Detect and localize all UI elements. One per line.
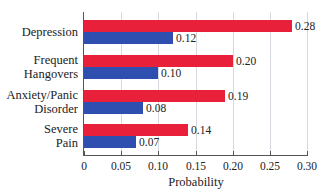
tick-mark	[307, 151, 308, 155]
bar	[84, 102, 143, 114]
x-axis-line	[83, 155, 308, 156]
bar	[84, 32, 173, 44]
value-label: 0.10	[161, 67, 181, 79]
tick-label: 0.20	[223, 160, 243, 172]
bar	[84, 67, 158, 79]
tick-mark	[233, 151, 234, 155]
tick-label: 0.10	[148, 160, 168, 172]
horizontal-bar-chart: 00.050.100.150.200.250.30 DepressionFreq…	[0, 0, 321, 191]
gridline	[307, 12, 308, 155]
category-label: Anxiety/Panic Disorder	[6, 88, 78, 116]
bar	[84, 136, 136, 148]
x-axis-label: Probability	[168, 175, 224, 190]
tick-mark	[270, 151, 271, 155]
tick-mark	[121, 151, 122, 155]
tick-mark	[196, 151, 197, 155]
value-label: 0.12	[176, 32, 196, 44]
category-label: Depression	[22, 25, 78, 39]
value-label: 0.14	[191, 124, 211, 136]
category-label: Severe Pain	[44, 122, 78, 150]
bar	[84, 124, 188, 136]
value-label: 0.07	[139, 136, 159, 148]
value-label: 0.08	[146, 102, 166, 114]
value-label: 0.28	[295, 20, 315, 32]
bar	[84, 55, 233, 67]
tick-label: 0.15	[186, 160, 206, 172]
gridline	[233, 12, 234, 155]
tick-mark	[84, 151, 85, 155]
category-label: Frequent Hangovers	[24, 53, 78, 81]
tick-label: 0.25	[260, 160, 280, 172]
tick-label: 0	[81, 160, 87, 172]
tick-label: 0.30	[297, 160, 317, 172]
tick-mark	[158, 151, 159, 155]
value-label: 0.20	[236, 55, 256, 67]
tick-label: 0.05	[111, 160, 131, 172]
bar	[84, 20, 292, 32]
value-label: 0.19	[228, 90, 248, 102]
bar	[84, 90, 225, 102]
gridline	[270, 12, 271, 155]
